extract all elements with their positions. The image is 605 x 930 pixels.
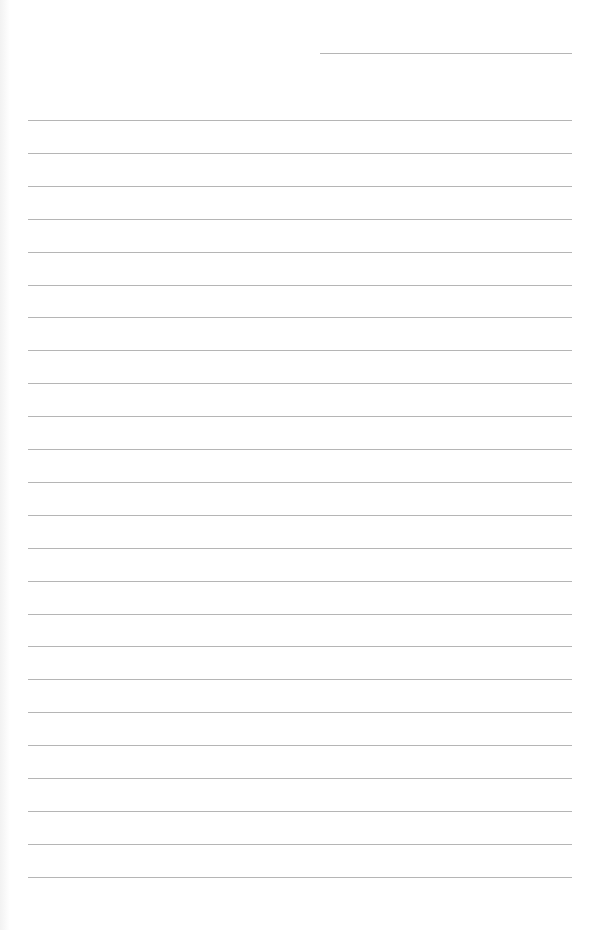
ruled-line bbox=[28, 285, 572, 286]
ruled-line bbox=[28, 383, 572, 384]
ruled-line bbox=[28, 712, 572, 713]
ruled-line bbox=[28, 186, 572, 187]
ruled-line bbox=[28, 877, 572, 878]
ruled-line bbox=[28, 811, 572, 812]
ruled-line bbox=[28, 646, 572, 647]
ruled-line bbox=[28, 679, 572, 680]
ruled-line bbox=[28, 745, 572, 746]
ruled-line bbox=[28, 778, 572, 779]
ruled-line bbox=[28, 317, 572, 318]
page-edge-shade bbox=[0, 0, 10, 930]
ruled-line bbox=[28, 614, 572, 615]
ruled-line bbox=[28, 416, 572, 417]
ruled-line bbox=[28, 548, 572, 549]
header-line bbox=[320, 53, 572, 54]
ruled-line bbox=[28, 120, 572, 121]
ruled-line bbox=[28, 153, 572, 154]
ruled-line bbox=[28, 350, 572, 351]
ruled-line bbox=[28, 844, 572, 845]
ruled-line bbox=[28, 219, 572, 220]
ruled-line bbox=[28, 449, 572, 450]
ruled-line bbox=[28, 252, 572, 253]
ruled-line bbox=[28, 581, 572, 582]
ruled-line bbox=[28, 515, 572, 516]
ruled-line bbox=[28, 482, 572, 483]
